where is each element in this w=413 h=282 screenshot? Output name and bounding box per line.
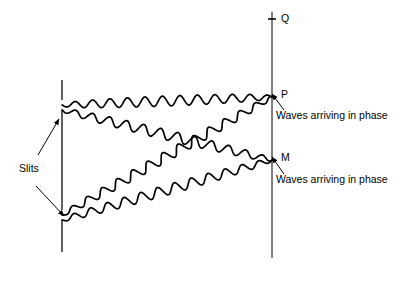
point-label-p: P bbox=[281, 89, 288, 100]
slits-arrow-lower bbox=[36, 186, 64, 216]
slits-arrow-upper bbox=[38, 119, 59, 155]
diagram-canvas bbox=[0, 0, 413, 282]
wave-paths bbox=[62, 94, 272, 220]
interference-diagram: Q P M Waves arriving in phase Waves arri… bbox=[0, 0, 413, 282]
point-label-m: M bbox=[281, 152, 290, 163]
wave-upper-slit-to-P bbox=[62, 94, 272, 107]
wave-lower-slit-to-M bbox=[62, 160, 272, 221]
caption-waves-in-phase-p: Waves arriving in phase bbox=[276, 110, 388, 121]
point-label-q: Q bbox=[281, 13, 289, 24]
observation-screen bbox=[268, 12, 276, 258]
caption-waves-in-phase-m: Waves arriving in phase bbox=[276, 174, 388, 185]
slits-label: Slits bbox=[19, 163, 39, 174]
